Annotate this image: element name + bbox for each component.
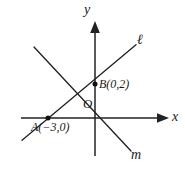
point-b-marker [93, 82, 98, 87]
point-b-label: B(0,2) [99, 78, 129, 90]
coordinate-plane-figure: y x ℓ m O B(0,2) A(−3,0) [0, 0, 185, 169]
point-a-label: A(−3,0) [31, 121, 69, 133]
x-axis-label: x [172, 110, 178, 124]
graph-canvas [0, 0, 185, 169]
line-l-label: ℓ [137, 33, 143, 47]
y-axis-arrow-icon [90, 21, 100, 33]
line-m-label: m [131, 148, 141, 162]
y-axis-label: y [84, 3, 90, 17]
x-axis-arrow-icon [157, 113, 169, 123]
origin-label: O [83, 97, 92, 110]
